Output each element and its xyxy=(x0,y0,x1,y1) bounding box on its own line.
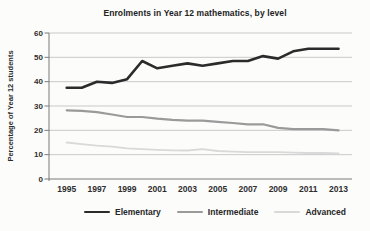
series-line-advanced xyxy=(67,143,339,154)
y-tick-label-60: 60 xyxy=(34,29,43,38)
legend-label-intermediate: Intermediate xyxy=(208,207,259,217)
legend: Elementary Intermediate Advanced xyxy=(60,204,370,220)
series-lines xyxy=(67,49,339,154)
x-tick-label-2005: 2005 xyxy=(208,184,227,194)
legend-item-elementary: Elementary xyxy=(84,207,161,217)
y-tick-label-30: 30 xyxy=(34,102,43,111)
y-tick-label-10: 10 xyxy=(34,150,43,159)
y-tick-label-40: 40 xyxy=(34,77,43,86)
legend-label-elementary: Elementary xyxy=(115,207,161,217)
x-tick-label-2013: 2013 xyxy=(329,184,348,194)
x-tick-label-2009: 2009 xyxy=(269,184,288,194)
line-chart: 0102030405060199519971999200120032005200… xyxy=(0,0,370,231)
legend-label-advanced: Advanced xyxy=(305,207,346,217)
intermediate-line-swatch xyxy=(177,211,203,213)
gridlines xyxy=(49,33,352,155)
elementary-line-swatch xyxy=(84,211,110,214)
x-tick-label-2011: 2011 xyxy=(299,184,318,194)
x-tick-label-1999: 1999 xyxy=(118,184,137,194)
x-tick-labels: 1995199719992001200320052007200920112013 xyxy=(57,184,348,194)
x-tick-label-2003: 2003 xyxy=(178,184,197,194)
y-tick-label-0: 0 xyxy=(39,175,44,184)
advanced-line-swatch xyxy=(274,211,300,213)
legend-item-advanced: Advanced xyxy=(274,207,346,217)
x-tick-label-2001: 2001 xyxy=(148,184,167,194)
x-tick-label-1997: 1997 xyxy=(87,184,106,194)
chart-card: Enrolments in Year 12 mathematics, by le… xyxy=(0,0,370,231)
legend-item-intermediate: Intermediate xyxy=(177,207,259,217)
series-line-intermediate xyxy=(67,110,339,130)
x-tick-label-1995: 1995 xyxy=(57,184,76,194)
axes xyxy=(45,33,353,181)
y-tick-label-20: 20 xyxy=(34,126,43,135)
y-tick-labels: 0102030405060 xyxy=(34,29,43,184)
y-tick-label-50: 50 xyxy=(34,53,43,62)
x-tick-label-2007: 2007 xyxy=(238,184,257,194)
